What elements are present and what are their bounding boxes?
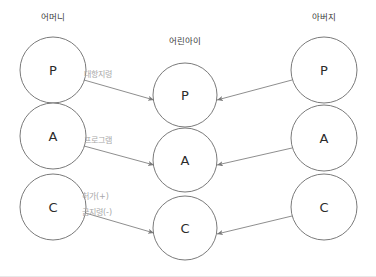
node-child-p: P xyxy=(153,63,217,127)
node-child-a: A xyxy=(153,128,217,192)
column-title-father: 아버지 xyxy=(312,12,336,22)
node-father-a: A xyxy=(291,105,357,171)
diagram-canvas: 어머니어린아이아버지 PACPACPAC 대항지령프로그램허가(+)금지령(-) xyxy=(0,0,376,277)
node-father-c: C xyxy=(291,174,357,240)
node-label-father-a: A xyxy=(320,131,329,146)
node-mother-a: A xyxy=(20,103,86,169)
node-label-child-c: C xyxy=(180,221,189,236)
node-label-mother-a: A xyxy=(49,129,58,144)
arrow-father-p-to-child-p xyxy=(217,80,292,100)
edge-label-program: 프로그램 xyxy=(84,135,112,145)
edge-label-injunction: 금지령(-) xyxy=(82,208,112,217)
node-mother-c: C xyxy=(20,174,86,240)
node-label-child-a: A xyxy=(181,153,190,168)
arrow-mother-p-to-child-p xyxy=(84,80,154,100)
node-child-c: C xyxy=(153,196,217,260)
column-title-mother: 어머니 xyxy=(41,12,65,22)
edge-label-permission: 허가(+) xyxy=(82,192,109,201)
nodes-group: PACPACPAC xyxy=(20,37,357,260)
arrow-mother-a-to-child-a xyxy=(84,146,154,165)
node-label-mother-p: P xyxy=(49,63,57,78)
node-label-father-c: C xyxy=(319,200,328,215)
node-label-father-p: P xyxy=(320,63,328,78)
arrow-father-c-to-child-c xyxy=(217,216,292,234)
edge-labels-group: 대항지령프로그램허가(+)금지령(-) xyxy=(82,70,112,217)
node-father-p: P xyxy=(291,37,357,103)
node-label-child-p: P xyxy=(181,88,189,103)
edge-label-counter-injunction: 대항지령 xyxy=(84,70,112,79)
node-label-mother-c: C xyxy=(48,200,57,215)
arrow-father-a-to-child-a xyxy=(217,148,292,165)
node-mother-p: P xyxy=(20,37,86,103)
column-title-child: 어린아이 xyxy=(169,36,201,46)
column-titles-group: 어머니어린아이아버지 xyxy=(41,12,336,46)
pac-ego-state-diagram: 어머니어린아이아버지 PACPACPAC 대항지령프로그램허가(+)금지령(-) xyxy=(0,0,376,277)
